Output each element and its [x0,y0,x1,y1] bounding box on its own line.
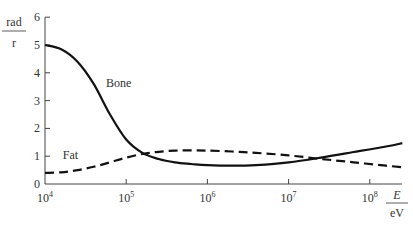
series-label-bone: Bone [106,76,131,90]
series-line-bone [45,45,402,166]
y-axis-label: rad r [2,15,26,50]
y-tick-label: 3 [34,94,40,108]
y-tick-label: 1 [34,149,40,163]
x-tick-label: 104 [37,190,53,205]
y-tick-label: 0 [34,177,40,191]
y-tick-label: 6 [34,10,40,24]
y-axis-label-numerator: rad [6,15,21,29]
series-label-fat: Fat [63,148,79,162]
x-tick-label: 105 [118,190,134,205]
x-axis-label-denominator: eV [390,206,404,220]
x-tick-label: 107 [281,190,297,205]
chart: rad r 0123456104105106107108 BoneFat E e… [0,0,413,226]
data-series: BoneFat [45,45,402,173]
axes: 0123456104105106107108 [34,10,402,205]
x-axis-label: E eV [386,188,408,220]
y-axis-label-denominator: r [12,36,16,50]
y-tick-label: 4 [34,66,40,80]
x-tick-label: 106 [199,190,215,205]
y-tick-label: 2 [34,121,40,135]
y-tick-label: 5 [34,38,40,52]
x-tick-label: 108 [362,190,378,205]
x-axis-label-numerator: E [392,188,401,202]
